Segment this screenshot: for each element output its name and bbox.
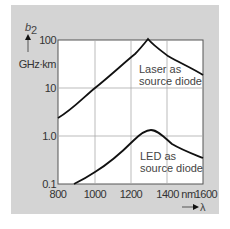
chart-figure: 100 10 1.0 0.1 GHz·km b 2 800 1000 1200 … [0,0,230,229]
led-label-line2: source diode [140,162,203,174]
y-tick-10: 10 [45,82,57,94]
y-tick-100: 100 [39,34,56,46]
y-tick-1: 1.0 [42,130,56,142]
laser-label-line2: source diode [139,75,202,87]
led-label-line1: LED as [140,150,177,162]
y-axis-unit: GHz·km [19,58,57,70]
laser-label-line1: Laser as [139,63,182,75]
chart-svg: 100 10 1.0 0.1 GHz·km b 2 800 1000 1200 … [0,0,230,229]
x-tick-1000: 1000 [84,188,107,200]
x-axis-symbol: λ [200,201,206,213]
y-axis-arrow-icon [25,34,31,52]
x-tick-800: 800 [50,188,67,200]
x-axis-arrow-icon [182,204,199,210]
x-tick-1200: 1200 [120,188,143,200]
x-tick-1400: 1400 nm [156,188,196,200]
y-axis-subscript: 2 [31,24,37,36]
x-tick-1600: 1600 [195,188,218,200]
